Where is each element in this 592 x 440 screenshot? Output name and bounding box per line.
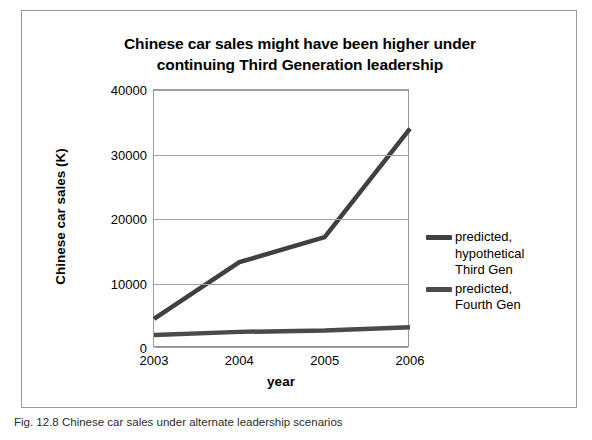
gridline bbox=[154, 155, 408, 156]
y-tick-label: 20000 bbox=[111, 212, 147, 227]
y-tick-label: 30000 bbox=[111, 147, 147, 162]
plot-area: 0100002000030000400002003200420052006 bbox=[153, 89, 409, 347]
series-line-third-gen bbox=[154, 129, 410, 319]
legend-swatch-fourth-gen bbox=[426, 287, 452, 292]
legend-label-fourth-gen: predicted, Fourth Gen bbox=[455, 281, 521, 314]
gridline bbox=[154, 284, 408, 285]
legend-label-line: predicted, bbox=[455, 229, 524, 246]
y-axis-title-text: Chinese car sales (K) bbox=[53, 148, 68, 285]
legend-entry-fourth-gen: predicted, Fourth Gen bbox=[426, 281, 566, 314]
x-tick-label: 2004 bbox=[225, 353, 254, 368]
gridline bbox=[154, 347, 408, 348]
x-tick-label: 2003 bbox=[140, 353, 169, 368]
x-tick-label: 2005 bbox=[310, 353, 339, 368]
chart-title-line-2: continuing Third Generation leadership bbox=[50, 54, 550, 75]
legend-label-line: Fourth Gen bbox=[455, 297, 521, 314]
chart-title-line-1: Chinese car sales might have been higher… bbox=[50, 33, 550, 54]
legend-label-line: Third Gen bbox=[455, 262, 524, 279]
gridline bbox=[154, 90, 408, 91]
y-tick-label: 40000 bbox=[111, 83, 147, 98]
chart-title: Chinese car sales might have been higher… bbox=[50, 33, 550, 75]
gridline bbox=[154, 219, 408, 220]
y-tick-label: 10000 bbox=[111, 276, 147, 291]
x-tick-label: 2006 bbox=[396, 353, 425, 368]
series-line-fourth-gen bbox=[154, 327, 410, 335]
figure-frame: Chinese car sales might have been higher… bbox=[21, 10, 577, 408]
x-axis-title: year bbox=[153, 374, 409, 389]
legend-entry-third-gen: predicted, hypothetical Third Gen bbox=[426, 229, 566, 279]
legend-swatch-third-gen bbox=[426, 235, 452, 240]
legend-label-line: hypothetical bbox=[455, 246, 524, 263]
legend-label-line: predicted, bbox=[455, 281, 521, 298]
legend-label-third-gen: predicted, hypothetical Third Gen bbox=[455, 229, 524, 279]
y-axis-title: Chinese car sales (K) bbox=[48, 116, 72, 316]
chart-legend: predicted, hypothetical Third Gen predic… bbox=[426, 229, 566, 316]
figure-caption: Fig. 12.8 Chinese car sales under altern… bbox=[14, 416, 343, 428]
